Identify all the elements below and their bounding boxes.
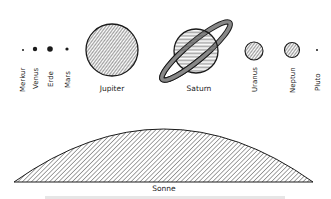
planet-saturn: Saturn: [157, 16, 236, 93]
label-erde: Erde: [47, 71, 55, 87]
planet-jupiter: Jupiter: [86, 24, 138, 93]
planet-mars: Mars: [64, 47, 72, 88]
planet-pluto: Pluto: [314, 49, 322, 91]
label-venus: Venus: [32, 68, 40, 89]
label-mars: Mars: [64, 71, 72, 88]
label-neptun: Neptun: [289, 67, 297, 93]
label-sonne: Sonne: [152, 184, 176, 193]
planet-venus: Venus: [32, 47, 40, 89]
planet-neptun: Neptun: [285, 43, 300, 94]
planet-erde: Erde: [47, 46, 55, 87]
planet-merkur: Merkur: [19, 49, 27, 92]
truncated-caption: [45, 196, 285, 199]
planet-uranus: Uranus: [245, 42, 263, 92]
label-saturn: Saturn: [187, 84, 212, 93]
planet-size-diagram: Merkur Venus Erde Mars Jupiter Saturn Ur…: [0, 0, 331, 199]
label-merkur: Merkur: [19, 68, 27, 92]
label-jupiter: Jupiter: [99, 84, 125, 93]
sun-segment: Sonne: [14, 129, 313, 193]
label-pluto: Pluto: [314, 73, 322, 91]
label-uranus: Uranus: [251, 67, 259, 92]
